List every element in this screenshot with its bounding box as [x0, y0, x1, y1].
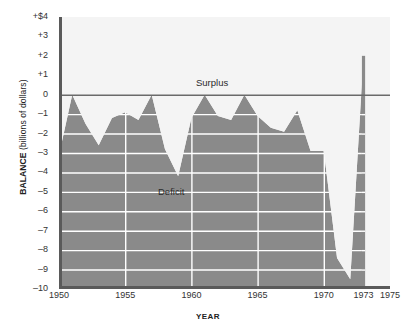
no-data-region	[364, 17, 390, 289]
annotation-deficit: Deficit	[158, 186, 184, 197]
x-tick-label: 1975	[380, 290, 400, 300]
y-tick-label: +3	[0, 31, 48, 40]
x-tick-label: 1960	[181, 290, 201, 300]
x-tick-label: 1950	[49, 290, 69, 300]
x-axis-title: YEAR	[0, 312, 416, 321]
x-tick-label: 1973	[354, 290, 374, 300]
x-tick-label: 1965	[248, 290, 268, 300]
y-tick-label: +2	[0, 51, 48, 60]
y-tick-label: –7	[0, 226, 48, 235]
plot-area	[59, 17, 390, 289]
y-tick-label: –2	[0, 129, 48, 138]
y-tick-label: –5	[0, 187, 48, 196]
chart-figure: BALANCE (billions of dollars) +$4+3+2+10…	[0, 0, 416, 334]
annotation-surplus: Surplus	[196, 77, 228, 88]
y-tick-label: –4	[0, 167, 48, 176]
y-tick-label: –3	[0, 148, 48, 157]
y-tick-label: +$4	[0, 12, 48, 21]
y-axis-tick-labels: +$4+3+2+10–1–2–3–4–5–6–7–8–9–10	[0, 0, 52, 334]
chart-canvas	[59, 17, 390, 289]
y-tick-label: –9	[0, 265, 48, 274]
y-tick-label: +1	[0, 70, 48, 79]
x-axis-tick-labels: 1950195519601965197019731975	[0, 290, 416, 308]
y-tick-label: –1	[0, 109, 48, 118]
x-tick-label: 1970	[314, 290, 334, 300]
y-tick-label: –6	[0, 206, 48, 215]
x-tick-label: 1955	[115, 290, 135, 300]
y-tick-label: –8	[0, 245, 48, 254]
y-tick-label: 0	[0, 90, 48, 99]
